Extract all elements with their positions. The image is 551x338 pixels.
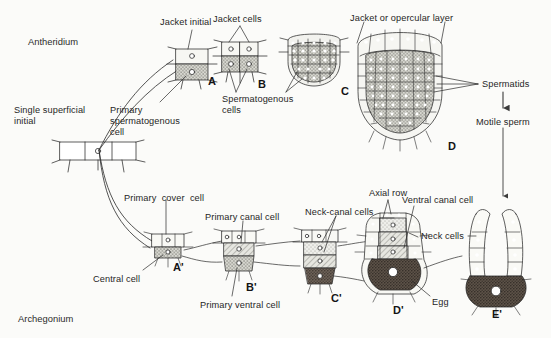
label-primary-spermatogenous-cell: Primary spermatogenous cell [110, 105, 180, 138]
stage-a-prime-cells [143, 200, 222, 270]
label-jacket-initial: Jacket initial [160, 17, 211, 28]
figure-canvas [0, 0, 551, 338]
stage-marker-e-prime: E' [492, 308, 502, 320]
stage-marker-c-prime: C' [331, 292, 342, 304]
stage-marker-b: B [258, 78, 266, 90]
label-ventral-canal-cell: Ventral canal cell [402, 195, 473, 206]
label-spermatogenous-cells: Spermatogenous cells [222, 94, 293, 116]
stage-e-prime-archegonium [461, 210, 531, 318]
diagram-svg [0, 0, 551, 338]
label-single-superficial-initial: Single superficial initial [14, 105, 85, 127]
single-superficial-initial-cells [52, 140, 145, 172]
label-primary-cover-cell: Primary cover cell [124, 193, 204, 204]
label-central-cell: Central cell [93, 274, 140, 285]
stage-marker-c: C [341, 85, 349, 97]
section-title-antheridium: Antheridium [28, 36, 78, 47]
stage-d-antheridium [357, 22, 478, 151]
label-spermatids: Spermatids [482, 79, 529, 90]
stage-marker-a: A [208, 75, 216, 87]
label-jacket-cells: Jacket cells [213, 14, 262, 25]
stage-marker-d-prime: D' [393, 304, 404, 316]
stage-marker-d: D [448, 140, 456, 152]
stage-c-cells [279, 34, 349, 92]
label-neck-cells: Neck cells [421, 231, 464, 242]
stage-marker-b-prime: B' [246, 281, 257, 293]
label-primary-ventral-cell: Primary ventral cell [200, 300, 280, 311]
label-primary-canal-cell: Primary canal cell [205, 212, 279, 223]
label-motile-sperm: Motile sperm [476, 117, 530, 128]
stage-a-cells [160, 30, 217, 102]
stage-marker-a-prime: A' [173, 261, 184, 273]
label-jacket-or-opercular-layer: Jacket or opercular layer [350, 13, 453, 24]
section-title-archegonium: Archegonium [18, 313, 73, 324]
label-neck-canal-cells: Neck-canal cells [305, 207, 374, 218]
label-egg: Egg [432, 297, 449, 308]
